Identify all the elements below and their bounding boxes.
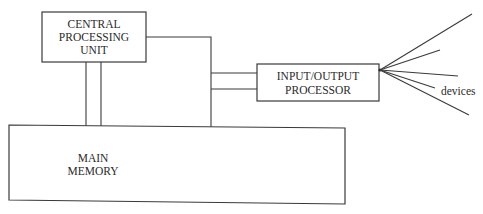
device-line-3 <box>380 70 458 76</box>
device-line-4 <box>380 70 435 88</box>
system-bus <box>146 37 211 128</box>
cpu-block: CENTRAL PROCESSING UNIT <box>42 12 146 62</box>
devices-label: devices <box>441 85 476 97</box>
bus-io-link <box>211 73 257 89</box>
cpu-label-line3: UNIT <box>80 44 107 56</box>
bus-line <box>146 37 211 128</box>
device-line-2 <box>380 50 440 70</box>
memory-label-line1: MAIN <box>78 152 109 164</box>
cpu-memory-link <box>86 62 101 126</box>
computer-architecture-diagram: CENTRAL PROCESSING UNIT INPUT/OUTPUT PRO… <box>0 0 483 214</box>
io-label-line2: PROCESSOR <box>285 84 351 96</box>
cpu-label-line2: PROCESSING <box>59 31 129 43</box>
main-memory-box <box>9 125 345 204</box>
io-label-line1: INPUT/OUTPUT <box>277 70 359 82</box>
main-memory-block: MAIN MEMORY <box>9 125 345 204</box>
memory-label-line2: MEMORY <box>67 165 119 177</box>
devices-fan-out: devices <box>378 14 476 115</box>
device-line-1 <box>380 14 472 70</box>
cpu-label-line1: CENTRAL <box>67 18 120 30</box>
io-processor-block: INPUT/OUTPUT PROCESSOR <box>257 64 379 101</box>
